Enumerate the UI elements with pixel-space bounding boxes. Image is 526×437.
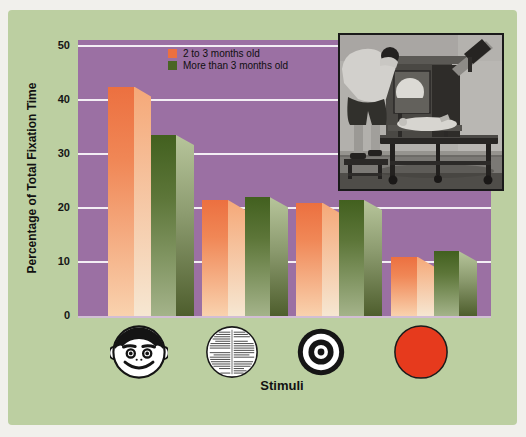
photo-table-leg-right xyxy=(486,144,491,177)
face-nose-dot xyxy=(140,359,142,361)
face-right-eyebrow xyxy=(143,346,155,347)
bar-side-series2-group2 xyxy=(270,197,288,316)
photo-researcher-shoe-right xyxy=(368,150,382,156)
face-left-pupil xyxy=(129,352,133,356)
photo-researcher-shoe-left xyxy=(350,153,366,159)
newsprint-stimulus-icon xyxy=(203,323,261,381)
y-tick-label-10: 10 xyxy=(34,255,70,267)
y-tick-label-20: 20 xyxy=(34,201,70,213)
y-axis-title: Percentage of Total Fixation Time xyxy=(25,83,39,274)
bullseye-stimulus-icon xyxy=(292,323,350,381)
bar-side-series1-group4 xyxy=(417,257,434,316)
photo-caster-left xyxy=(389,176,398,185)
looking-chamber-photo-art xyxy=(340,35,502,189)
bar-series2-group1 xyxy=(151,135,176,316)
photo-researcher-leg-left xyxy=(354,125,363,155)
bar-side-series1-group3 xyxy=(322,203,339,316)
bar-series1-group1 xyxy=(108,87,134,317)
photo-caster-right xyxy=(484,176,493,185)
bullseye-center-dot xyxy=(318,349,325,356)
face-nose xyxy=(136,359,138,361)
y-tick-label-40: 40 xyxy=(34,93,70,105)
photo-chamber-light-mask xyxy=(395,98,429,113)
photo-table-leg-left xyxy=(390,144,395,177)
bar-group-2 xyxy=(202,40,288,316)
y-tick-label-0: 0 xyxy=(34,309,70,321)
y-tick-label-30: 30 xyxy=(34,147,70,159)
y-tick-label-50: 50 xyxy=(34,39,70,51)
bar-side-series2-group3 xyxy=(364,200,382,316)
legend-item-older: More than 3 months old xyxy=(168,60,288,71)
red-disc xyxy=(395,326,447,378)
legend-label-older: More than 3 months old xyxy=(183,60,288,71)
bar-series2-group2 xyxy=(245,197,270,316)
figure-panel: Percentage of Total Fixation Time 2 to 3… xyxy=(8,10,517,425)
bar-series1-group3 xyxy=(296,203,322,316)
bar-side-series2-group4 xyxy=(459,251,477,316)
legend: 2 to 3 months old More than 3 months old xyxy=(168,48,288,72)
photo-stool-leg-right xyxy=(378,165,382,179)
photo-caster-mid xyxy=(434,175,442,183)
legend-label-younger: 2 to 3 months old xyxy=(183,48,260,59)
bar-series2-group4 xyxy=(434,251,459,316)
photo-scope-post xyxy=(468,57,472,72)
photo-stool-shelf xyxy=(348,173,382,176)
photo-table-stretcher xyxy=(390,161,491,165)
photo-table-leg-mid xyxy=(436,144,440,175)
legend-swatch-older xyxy=(168,61,177,70)
legend-swatch-younger xyxy=(168,49,177,58)
bar-series1-group2 xyxy=(202,200,228,316)
face-right-pupil xyxy=(145,352,149,356)
photo-stool-leg-left xyxy=(348,165,352,179)
bar-side-series1-group1 xyxy=(134,87,151,317)
bar-series1-group4 xyxy=(391,257,417,316)
bar-side-series2-group1 xyxy=(176,135,194,316)
x-axis-title: Stimuli xyxy=(242,378,322,393)
photo-researcher-leg-right xyxy=(371,125,380,153)
bar-group-1 xyxy=(108,40,194,316)
legend-item-younger: 2 to 3 months old xyxy=(168,48,288,59)
looking-chamber-photo xyxy=(338,33,504,191)
bar-side-series1-group2 xyxy=(228,200,245,316)
figure-page: Percentage of Total Fixation Time 2 to 3… xyxy=(0,0,526,437)
bar-series2-group3 xyxy=(339,200,364,316)
photo-infant-head xyxy=(399,118,407,126)
face-stimulus-icon xyxy=(110,323,168,381)
face-left-eyebrow xyxy=(124,346,136,347)
photo-step-stool xyxy=(344,159,388,165)
red-disc-stimulus-icon xyxy=(392,323,450,381)
